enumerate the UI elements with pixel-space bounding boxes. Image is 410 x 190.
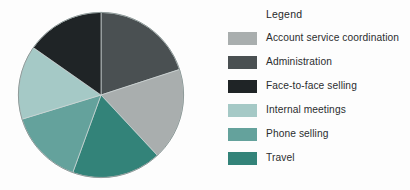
- legend-item-label: Face-to-face selling: [266, 80, 357, 92]
- legend-swatch-icon: [228, 152, 257, 165]
- pie-chart-figure: Legend Account service coordination Admi…: [0, 0, 410, 190]
- pie-svg: [14, 6, 190, 184]
- legend-item-label: Internal meetings: [266, 104, 346, 116]
- legend-item-internal-meetings[interactable]: Internal meetings: [228, 98, 408, 122]
- legend-swatch-icon: [228, 104, 257, 117]
- legend-item-travel[interactable]: Travel: [228, 146, 408, 170]
- legend-item-label: Travel: [266, 152, 295, 164]
- legend-title: Legend: [266, 8, 408, 20]
- legend-item-administration[interactable]: Administration: [228, 50, 408, 74]
- legend-item-face-to-face-selling[interactable]: Face-to-face selling: [228, 74, 408, 98]
- legend-swatch-icon: [228, 80, 257, 93]
- legend-item-phone-selling[interactable]: Phone selling: [228, 122, 408, 146]
- legend-item-label: Account service coordination: [266, 32, 399, 44]
- pie-chart-graphic: [14, 6, 190, 184]
- pie-slice-group: [18, 12, 183, 177]
- legend-item-label: Phone selling: [266, 128, 328, 140]
- legend-swatch-icon: [228, 32, 257, 45]
- legend-swatch-icon: [228, 56, 257, 69]
- legend-item-label: Administration: [266, 56, 332, 68]
- legend-item-account-service-coordination[interactable]: Account service coordination: [228, 26, 408, 50]
- legend-swatch-icon: [228, 128, 257, 141]
- legend: Legend Account service coordination Admi…: [228, 8, 408, 170]
